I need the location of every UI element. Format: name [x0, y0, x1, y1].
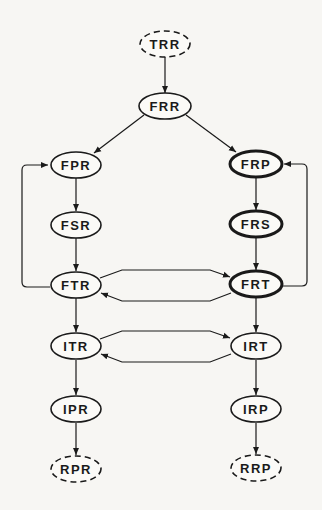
edge-ftr-fpr-loop — [22, 165, 50, 287]
node-label: RRP — [240, 461, 272, 476]
node-rpr: RPR — [51, 456, 101, 482]
node-label: FTR — [61, 278, 91, 293]
edge-irt-itr — [101, 354, 231, 362]
edge-frt-frp-loop — [283, 164, 307, 286]
node-trr: TRR — [140, 31, 190, 57]
node-fpr: FPR — [51, 152, 101, 178]
node-rrp: RRP — [231, 455, 281, 481]
node-frs: FRS — [230, 211, 282, 237]
node-ipr: IPR — [51, 396, 101, 422]
node-label: TRR — [149, 37, 180, 52]
node-label: FRT — [241, 277, 271, 292]
node-irp: IRP — [231, 396, 281, 422]
node-label: IRP — [243, 402, 269, 417]
state-diagram: TRR FRR FPR FRP FSR FRS FTR FRT — [0, 0, 322, 510]
node-ftr: FTR — [51, 272, 101, 298]
edge-itr-irt — [100, 331, 230, 339]
node-label: FRS — [241, 217, 272, 232]
edge-frr-frp — [186, 115, 236, 152]
node-label: FSR — [61, 218, 92, 233]
node-irt: IRT — [231, 333, 281, 359]
node-label: RPR — [60, 462, 92, 477]
node-frr: FRR — [139, 93, 191, 119]
node-label: ITR — [63, 339, 88, 354]
edge-ftr-frt — [100, 270, 230, 278]
edge-frr-fpr — [94, 115, 144, 153]
node-label: IRT — [243, 339, 268, 354]
node-label: FRR — [149, 99, 180, 114]
diagram-svg: TRR FRR FPR FRP FSR FRS FTR FRT — [0, 0, 322, 510]
node-fsr: FSR — [51, 212, 101, 238]
node-label: FRP — [241, 157, 272, 172]
node-label: IPR — [63, 402, 89, 417]
edge-frt-ftr — [101, 293, 231, 301]
node-frt: FRT — [230, 271, 282, 297]
nodes: TRR FRR FPR FRP FSR FRS FTR FRT — [51, 31, 282, 482]
node-itr: ITR — [51, 333, 101, 359]
node-label: FPR — [61, 158, 92, 173]
node-frp: FRP — [230, 151, 282, 177]
